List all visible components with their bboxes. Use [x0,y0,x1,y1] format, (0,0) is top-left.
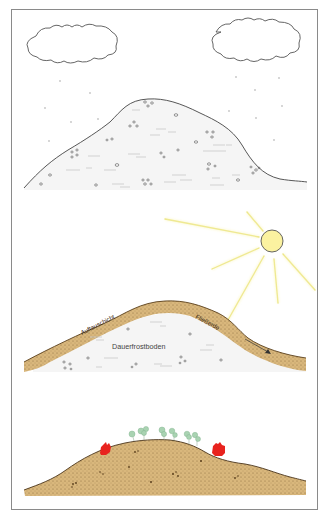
cloud-icon [27,24,117,63]
periglacial-diagram: Auftauschicht Fließerde Dauerfrostboden [0,0,326,519]
sun-icon [261,230,283,252]
permafrost-label: Dauerfrostboden [112,342,166,351]
cloud-icon [212,18,300,62]
